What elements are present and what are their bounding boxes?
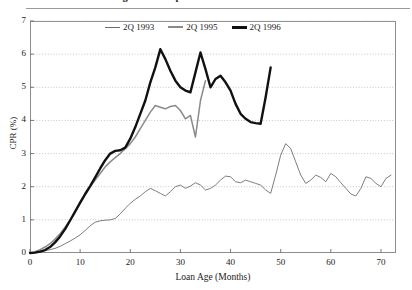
legend-label: 2Q 1996: [250, 22, 281, 32]
y-axis-title: CPR (%): [8, 98, 18, 168]
chart-canvas: [0, 0, 412, 290]
legend-line-swatch: [232, 26, 247, 29]
legend-entry-2q-1993[interactable]: 2Q 1993: [105, 22, 154, 32]
series-line-2q-1995: [30, 81, 205, 253]
y-tick-label-0: 0: [4, 247, 26, 257]
x-tick-label-40: 40: [216, 257, 246, 267]
x-tick-label-20: 20: [115, 257, 145, 267]
chart-figure: Figure 3. Sample vs. Actual Default Rate…: [0, 0, 412, 290]
legend-label: 2Q 1995: [186, 22, 217, 32]
x-axis-title: Loan Age (Months): [30, 272, 396, 282]
legend-line-swatch: [168, 26, 183, 28]
y-tick-label-5: 5: [4, 81, 26, 91]
chart-legend: 2Q 19932Q 19952Q 1996: [105, 22, 281, 32]
series-line-2q-1993: [30, 144, 391, 253]
data-series-layer: [30, 49, 391, 253]
y-tick-label-6: 6: [4, 48, 26, 58]
legend-line-swatch: [105, 27, 120, 28]
y-tick-label-1: 1: [4, 214, 26, 224]
legend-entry-2q-1995[interactable]: 2Q 1995: [168, 22, 217, 32]
x-tick-label-30: 30: [165, 257, 195, 267]
y-tick-label-7: 7: [4, 15, 26, 25]
series-line-2q-1996: [30, 49, 271, 253]
y-tick-label-2: 2: [4, 181, 26, 191]
gridlines: [31, 21, 395, 220]
x-tick-label-10: 10: [65, 257, 95, 267]
x-tick-label-0: 0: [15, 257, 45, 267]
legend-label: 2Q 1993: [123, 22, 154, 32]
legend-entry-2q-1996[interactable]: 2Q 1996: [232, 22, 281, 32]
x-tick-label-50: 50: [266, 257, 296, 267]
x-tick-label-60: 60: [316, 257, 346, 267]
x-tick-label-70: 70: [366, 257, 396, 267]
tick-marks: [30, 21, 381, 253]
